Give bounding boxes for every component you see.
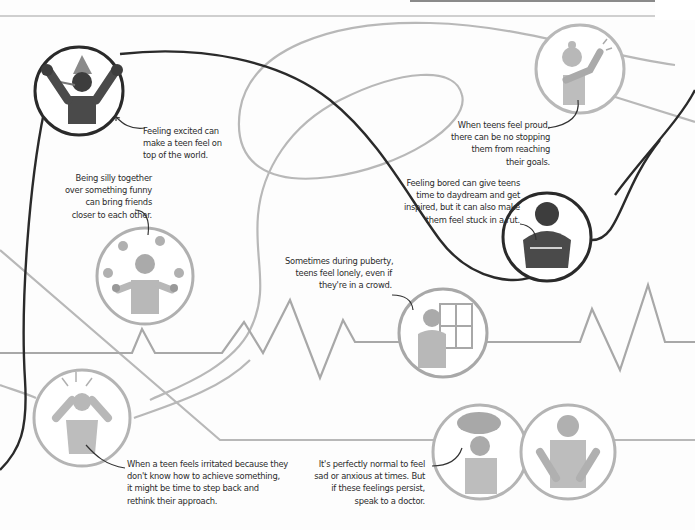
silly-icon <box>97 228 193 324</box>
caption-lonely: Sometimes during puberty, teens feel lon… <box>285 255 392 292</box>
proud-icon <box>536 25 624 113</box>
excited-icon <box>35 47 123 135</box>
zigzag-line-left <box>0 300 403 378</box>
irritated-left-line <box>0 385 36 398</box>
lonely-icon <box>399 289 487 377</box>
zigzag-line-right <box>470 285 695 370</box>
dark-line-right <box>615 90 695 195</box>
sad-icon <box>433 405 527 499</box>
caption-irritated: When a teen feels irritated because they… <box>127 458 288 507</box>
caption-excited: Feeling excited can make a teen feel on … <box>143 125 222 162</box>
caption-bored: Feeling bored can give teens time to day… <box>400 177 520 226</box>
caption-silly: Being silly together over something funn… <box>30 172 152 221</box>
caption-sad: It's perfectly normal to feel sad or anx… <box>305 458 425 507</box>
caption-proud: When teens feel proud, there can be no s… <box>440 119 550 168</box>
anxious-icon <box>521 405 615 499</box>
irritated-right-line <box>134 360 250 418</box>
excited-arrow <box>116 117 145 128</box>
infographic-page: Feeling excited can make a teen feel on … <box>0 0 695 530</box>
irritated-icon <box>34 370 130 466</box>
